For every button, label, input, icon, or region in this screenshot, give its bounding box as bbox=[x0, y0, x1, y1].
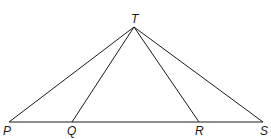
point-label-R: R bbox=[195, 124, 204, 138]
point-label-Q: Q bbox=[67, 124, 76, 138]
point-label-P: P bbox=[3, 124, 11, 138]
geometry-diagram: T P Q R S bbox=[0, 0, 271, 139]
segment-TQ bbox=[72, 27, 134, 122]
point-label-S: S bbox=[260, 124, 268, 138]
segment-TR bbox=[134, 27, 199, 122]
segment-TP bbox=[9, 27, 134, 122]
segment-TS bbox=[134, 27, 263, 122]
point-label-T: T bbox=[131, 12, 140, 26]
